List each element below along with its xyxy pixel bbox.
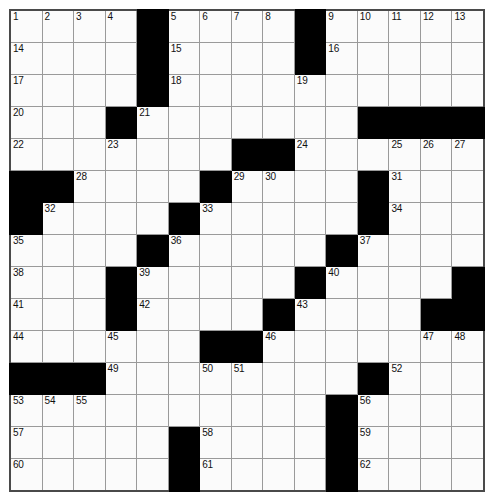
crossword-cell[interactable]: 35 xyxy=(10,235,42,267)
crossword-cell[interactable] xyxy=(42,267,74,299)
crossword-cell[interactable] xyxy=(42,139,74,171)
crossword-cell[interactable] xyxy=(168,299,200,331)
crossword-cell[interactable] xyxy=(326,75,358,107)
crossword-cell[interactable]: 24 xyxy=(294,139,326,171)
crossword-cell[interactable]: 14 xyxy=(10,43,42,75)
crossword-cell[interactable] xyxy=(326,203,358,235)
crossword-cell[interactable] xyxy=(200,75,232,107)
crossword-cell[interactable]: 23 xyxy=(105,139,137,171)
crossword-cell[interactable] xyxy=(231,427,263,459)
crossword-cell[interactable] xyxy=(263,363,295,395)
crossword-cell[interactable]: 28 xyxy=(74,171,106,203)
crossword-grid[interactable]: 1234567891011121314151617181920212223242… xyxy=(9,9,485,492)
crossword-cell[interactable] xyxy=(200,395,232,427)
crossword-cell[interactable] xyxy=(294,427,326,459)
crossword-cell[interactable]: 19 xyxy=(294,75,326,107)
crossword-cell[interactable] xyxy=(420,427,452,459)
crossword-cell[interactable] xyxy=(231,299,263,331)
crossword-cell[interactable] xyxy=(137,427,169,459)
crossword-cell[interactable] xyxy=(452,171,484,203)
crossword-cell[interactable]: 9 xyxy=(326,10,358,43)
crossword-cell[interactable] xyxy=(326,331,358,363)
crossword-cell[interactable]: 51 xyxy=(231,363,263,395)
crossword-cell[interactable] xyxy=(74,139,106,171)
crossword-cell[interactable] xyxy=(74,203,106,235)
crossword-cell[interactable] xyxy=(42,235,74,267)
crossword-cell[interactable] xyxy=(263,43,295,75)
crossword-cell[interactable] xyxy=(357,139,389,171)
crossword-cell[interactable] xyxy=(168,107,200,139)
crossword-cell[interactable] xyxy=(420,203,452,235)
crossword-cell[interactable] xyxy=(294,459,326,492)
crossword-cell[interactable] xyxy=(42,459,74,492)
crossword-cell[interactable] xyxy=(263,107,295,139)
crossword-cell[interactable] xyxy=(137,395,169,427)
crossword-cell[interactable]: 22 xyxy=(10,139,42,171)
crossword-cell[interactable]: 40 xyxy=(326,267,358,299)
crossword-cell[interactable]: 34 xyxy=(389,203,421,235)
crossword-cell[interactable] xyxy=(420,235,452,267)
crossword-cell[interactable] xyxy=(74,427,106,459)
crossword-cell[interactable] xyxy=(231,235,263,267)
crossword-cell[interactable]: 62 xyxy=(357,459,389,492)
crossword-cell[interactable] xyxy=(263,459,295,492)
crossword-cell[interactable] xyxy=(74,75,106,107)
crossword-cell[interactable] xyxy=(452,395,484,427)
crossword-cell[interactable]: 44 xyxy=(10,331,42,363)
crossword-cell[interactable]: 3 xyxy=(74,10,106,43)
crossword-cell[interactable]: 39 xyxy=(137,267,169,299)
crossword-cell[interactable] xyxy=(74,459,106,492)
crossword-cell[interactable] xyxy=(200,139,232,171)
crossword-cell[interactable]: 13 xyxy=(452,10,484,43)
crossword-cell[interactable]: 58 xyxy=(200,427,232,459)
crossword-cell[interactable] xyxy=(200,267,232,299)
crossword-cell[interactable]: 53 xyxy=(10,395,42,427)
crossword-cell[interactable] xyxy=(42,331,74,363)
crossword-cell[interactable] xyxy=(452,43,484,75)
crossword-cell[interactable]: 29 xyxy=(231,171,263,203)
crossword-cell[interactable] xyxy=(105,235,137,267)
crossword-cell[interactable]: 37 xyxy=(357,235,389,267)
crossword-cell[interactable]: 33 xyxy=(200,203,232,235)
crossword-cell[interactable] xyxy=(357,331,389,363)
crossword-cell[interactable] xyxy=(231,395,263,427)
crossword-cell[interactable] xyxy=(326,299,358,331)
crossword-cell[interactable] xyxy=(389,267,421,299)
crossword-cell[interactable] xyxy=(420,363,452,395)
crossword-cell[interactable] xyxy=(263,395,295,427)
crossword-cell[interactable] xyxy=(42,107,74,139)
crossword-cell[interactable] xyxy=(200,107,232,139)
crossword-cell[interactable]: 30 xyxy=(263,171,295,203)
crossword-cell[interactable] xyxy=(231,267,263,299)
crossword-cell[interactable]: 48 xyxy=(452,331,484,363)
crossword-cell[interactable]: 20 xyxy=(10,107,42,139)
crossword-cell[interactable] xyxy=(74,299,106,331)
crossword-cell[interactable] xyxy=(105,427,137,459)
crossword-cell[interactable] xyxy=(357,43,389,75)
crossword-cell[interactable] xyxy=(168,267,200,299)
crossword-cell[interactable] xyxy=(326,363,358,395)
crossword-cell[interactable] xyxy=(74,267,106,299)
crossword-cell[interactable] xyxy=(294,107,326,139)
crossword-cell[interactable]: 16 xyxy=(326,43,358,75)
crossword-cell[interactable]: 50 xyxy=(200,363,232,395)
crossword-cell[interactable] xyxy=(357,267,389,299)
crossword-cell[interactable] xyxy=(452,363,484,395)
crossword-cell[interactable] xyxy=(357,299,389,331)
crossword-cell[interactable]: 59 xyxy=(357,427,389,459)
crossword-cell[interactable] xyxy=(389,427,421,459)
crossword-cell[interactable] xyxy=(42,299,74,331)
crossword-cell[interactable] xyxy=(200,235,232,267)
crossword-cell[interactable]: 57 xyxy=(10,427,42,459)
crossword-cell[interactable] xyxy=(231,459,263,492)
crossword-cell[interactable] xyxy=(294,203,326,235)
crossword-cell[interactable] xyxy=(74,331,106,363)
crossword-cell[interactable]: 38 xyxy=(10,267,42,299)
crossword-cell[interactable] xyxy=(74,235,106,267)
crossword-cell[interactable]: 43 xyxy=(294,299,326,331)
crossword-cell[interactable] xyxy=(231,75,263,107)
crossword-cell[interactable]: 41 xyxy=(10,299,42,331)
crossword-cell[interactable]: 47 xyxy=(420,331,452,363)
crossword-cell[interactable]: 32 xyxy=(42,203,74,235)
crossword-cell[interactable] xyxy=(389,235,421,267)
